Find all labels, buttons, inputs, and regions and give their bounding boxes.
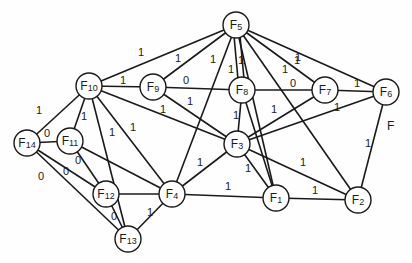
edge-weight-label: 0 (75, 154, 81, 166)
edge-f3-f2 (237, 144, 358, 200)
edge-weight-label: 1 (225, 180, 231, 192)
edge-f4-f1 (172, 194, 276, 198)
edge-weight-label: 1 (36, 104, 42, 116)
edge-weight-label: 1 (210, 53, 216, 65)
edge-weight-label: 1 (197, 156, 203, 168)
edge-weight-label: 1 (245, 162, 251, 174)
edge-weight-label: 1 (282, 63, 288, 75)
edge-weight-label: 1 (160, 103, 166, 115)
edge-weight-label: 1 (271, 103, 277, 115)
edge-weight-label: 0 (183, 74, 189, 86)
edge-f10-f13 (89, 86, 128, 239)
edge-weight-label: 1 (120, 74, 126, 86)
edge-weight-label: 1 (81, 110, 87, 122)
edge-f11-f4 (70, 141, 172, 194)
node-f12: F12 (93, 181, 119, 207)
edge-weight-label: 1 (354, 77, 360, 89)
edge-weight-label: 1 (187, 95, 193, 107)
node-f2: F2 (345, 187, 371, 213)
edge-weight-label: 1 (109, 126, 115, 138)
edge-weight-label: 1 (238, 54, 244, 66)
edge-weight-label: 0 (63, 165, 69, 177)
node-f1: F1 (263, 185, 289, 211)
edge-weight-label: 1 (130, 121, 136, 133)
edge-weight-label: 1 (334, 101, 340, 113)
edge-weight-label: 1 (295, 51, 301, 63)
node-f11: F11 (57, 128, 83, 154)
edge-weight-label: 1 (233, 109, 239, 121)
edge-weight-label: 1 (175, 52, 181, 64)
node-f9: F9 (140, 74, 166, 100)
edge-weight-label: 0 (44, 127, 50, 139)
graph-diagram: 111011111100000111111101111111111 F1F2F3… (0, 0, 412, 263)
node-f7: F7 (312, 77, 338, 103)
annotation-label: F (387, 119, 394, 133)
edge-layer (27, 25, 386, 239)
edge-weight-label: 0 (290, 77, 296, 89)
edge-weight-label: 0 (38, 170, 44, 182)
edge-weight-label: 1 (147, 206, 153, 218)
edge-weight-label: 0 (111, 210, 117, 222)
edge-weight-label: 1 (138, 46, 144, 58)
edge-f6-f2 (358, 92, 386, 200)
edge-weight-label: 1 (312, 184, 318, 196)
node-f5: F5 (223, 12, 249, 38)
node-f4: F4 (159, 181, 185, 207)
node-f8: F8 (229, 77, 255, 103)
node-f3: F3 (224, 131, 250, 157)
node-f13: F13 (115, 226, 141, 252)
node-f6: F6 (373, 79, 399, 105)
edge-f6-f3 (237, 92, 386, 144)
edge-weight-label: 1 (300, 156, 306, 168)
edge-weight-label: 1 (365, 137, 371, 149)
node-f14: F14 (14, 130, 40, 156)
free-label-layer: F (387, 119, 394, 133)
edge-weight-label: 1 (228, 63, 234, 75)
node-f10: F10 (76, 73, 102, 99)
